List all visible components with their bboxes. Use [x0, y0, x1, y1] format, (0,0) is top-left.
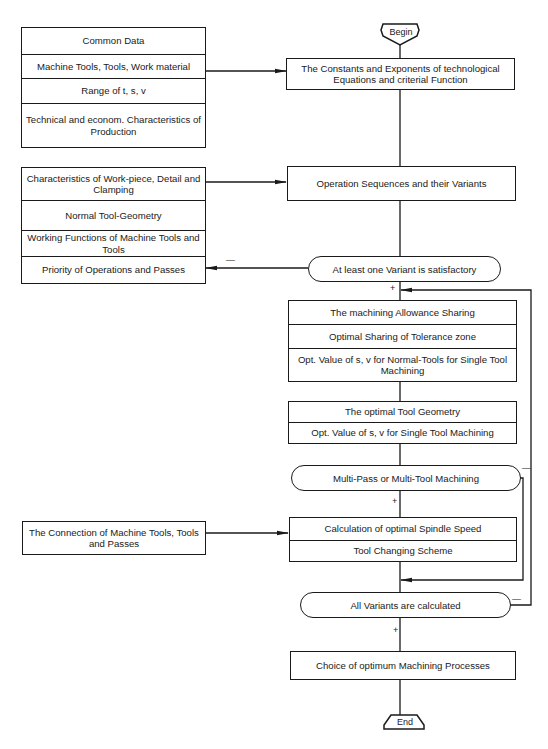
- normal-tool-geometry-row: Normal Tool-Geometry: [22, 200, 205, 230]
- working-functions-row: Working Functions of Machine Tools and T…: [22, 230, 205, 256]
- operation-sequences-text: Operation Sequences and their Variants: [288, 167, 515, 200]
- single-tool-values-row: Opt. Value of s, v for Single Tool Machi…: [289, 422, 516, 443]
- decision-multi-pass: Multi-Pass or Multi-Tool Machining: [291, 465, 521, 491]
- optimal-geometry-row: The optimal Tool Geometry: [289, 402, 516, 422]
- plus-sign-satisfactory: +: [390, 283, 395, 293]
- constants-box: The Constants and Exponents of technolog…: [286, 58, 515, 90]
- normal-tools-values-row: Opt. Value of s, v for Normal-Tools for …: [289, 348, 516, 381]
- tool-changing-row: Tool Changing Scheme: [290, 540, 516, 561]
- minus-sign-all: —: [512, 594, 521, 604]
- workpiece-data-box: Characteristics of Work-piece, Detail an…: [21, 167, 206, 284]
- plus-sign-multi: +: [392, 496, 397, 506]
- allowance-box: The machining Allowance Sharing Optimal …: [288, 300, 517, 382]
- general-data-box: Common Data Machine Tools, Tools, Work m…: [21, 27, 206, 148]
- tolerance-sharing-row: Optimal Sharing of Tolerance zone: [289, 324, 516, 348]
- choice-box: Choice of optimum Machining Processes: [290, 651, 516, 680]
- decision-all-variants: All Variants are calculated: [300, 592, 511, 618]
- plus-sign-all: +: [393, 625, 398, 635]
- priority-row: Priority of Operations and Passes: [22, 256, 205, 283]
- range-row: Range of t, s, v: [22, 78, 205, 103]
- end-terminal: End: [386, 717, 424, 727]
- spindle-speed-row: Calculation of optimal Spindle Speed: [290, 518, 516, 540]
- tool-geometry-box: The optimal Tool Geometry Opt. Value of …: [288, 401, 517, 444]
- connection-row: The Connection of Machine Tools, Tools a…: [23, 522, 205, 554]
- decision-satisfactory: At least one Variant is satisfactory: [308, 256, 501, 282]
- constants-text: The Constants and Exponents of technolog…: [287, 59, 514, 89]
- machine-tools-row: Machine Tools, Tools, Work material: [22, 54, 205, 78]
- operation-sequences-box: Operation Sequences and their Variants: [287, 166, 516, 201]
- minus-sign-multi: —: [522, 463, 531, 473]
- begin-terminal: Begin: [383, 27, 419, 37]
- connection-box: The Connection of Machine Tools, Tools a…: [22, 521, 206, 555]
- common-data-row: Common Data: [22, 28, 205, 54]
- choice-text: Choice of optimum Machining Processes: [291, 652, 515, 679]
- spindle-speed-box: Calculation of optimal Spindle Speed Too…: [289, 517, 517, 562]
- workpiece-characteristics-row: Characteristics of Work-piece, Detail an…: [22, 168, 205, 200]
- production-characteristics-row: Technical and econom. Characteristics of…: [22, 103, 205, 147]
- allowance-sharing-row: The machining Allowance Sharing: [289, 301, 516, 324]
- minus-sign-satisfactory: —: [226, 255, 235, 265]
